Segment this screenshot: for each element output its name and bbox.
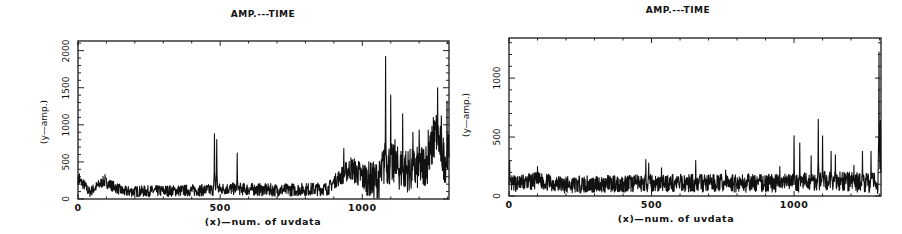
x-tick-label: 500 [641, 199, 662, 210]
chart-right: AMP.---TIME (y—amp.) (x)—num. of uvdata … [0, 0, 902, 234]
y-axis-label: (y—amp.) [461, 93, 471, 137]
y-tick-label: 500 [492, 128, 502, 145]
y-tick-label: 1000 [492, 67, 502, 90]
x-tick-label: 0 [505, 199, 512, 210]
x-axis-label: (x)—num. of uvdata [618, 213, 735, 224]
amplitude-series [509, 52, 881, 193]
plot-area [0, 0, 902, 234]
y-tick-label: 0 [492, 193, 502, 199]
x-tick-label: 1000 [780, 199, 808, 210]
